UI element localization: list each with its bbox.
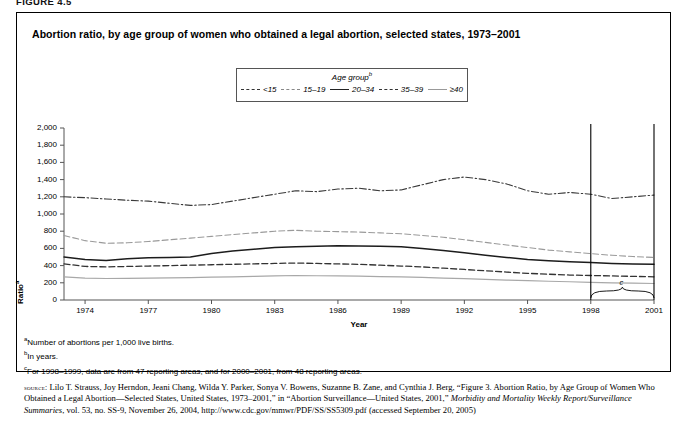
footnote-a-text: Number of abortions per 1,000 live birth… <box>27 338 174 347</box>
legend-label-15-19: 15–19 <box>303 85 325 94</box>
legend-item-40plus: ≥40 <box>428 85 463 94</box>
legend-title-superscript: b <box>369 71 372 77</box>
source-citation: source: Lilo T. Strauss, Joy Herndon, Je… <box>24 382 669 416</box>
footnote-c: cFor 1998–1999, data are from 47 reporti… <box>24 363 654 377</box>
chart-plot-area: Ratioa 2,0001,8001,6001,4001,2001,000800… <box>20 118 675 318</box>
y-axis-tick-label: 1,600 <box>20 158 57 166</box>
legend-label-40plus: ≥40 <box>450 85 463 94</box>
series-line-20-34 <box>64 246 654 264</box>
x-axis-tick-label: 1989 <box>381 306 421 315</box>
series-line-35-39 <box>64 263 654 277</box>
legend-line-icon-15-19 <box>281 87 300 93</box>
page-title: Abortion ratio, by age group of women wh… <box>32 28 520 40</box>
x-axis-tick-label: 1986 <box>318 306 358 315</box>
legend-title-text: Age group <box>332 73 369 82</box>
x-axis-tick-label: 1998 <box>571 306 611 315</box>
footnote-c-text: For 1998–1999, data are from 47 reportin… <box>27 366 362 375</box>
x-axis-tick-label: 2001 <box>634 306 674 315</box>
y-axis-tick-label: 1,400 <box>20 176 57 184</box>
footnote-b-text: In years. <box>27 352 58 361</box>
legend-item-lt15: <15 <box>241 85 277 94</box>
y-axis-tick-label: 2,000 <box>20 124 57 132</box>
x-axis-tick-label: 1980 <box>192 306 232 315</box>
series-line-15-19 <box>64 230 654 257</box>
figure-label: FIGURE 4.5 <box>16 0 72 7</box>
legend-line-icon-35-39 <box>379 87 398 93</box>
legend-items: <15 15–19 20–34 35–39 ≥40 <box>241 85 463 94</box>
x-axis-tick-label: 1995 <box>508 306 548 315</box>
legend-label-lt15: <15 <box>263 85 277 94</box>
line-chart-svg <box>20 118 675 318</box>
brace-annotation-label: c <box>619 278 623 287</box>
y-axis-tick-label: 0 <box>20 296 57 304</box>
legend-title: Age groupb <box>237 71 467 82</box>
legend-line-icon-lt15 <box>241 87 260 93</box>
y-axis-tick-label: 1,200 <box>20 193 57 201</box>
x-axis-tick-label: 1974 <box>65 306 105 315</box>
y-axis-tick-label: 400 <box>20 262 57 270</box>
series-line-15 <box>64 177 654 205</box>
footnotes: aNumber of abortions per 1,000 live birt… <box>24 334 654 377</box>
x-axis-tick-label: 1977 <box>128 306 168 315</box>
legend-item-15-19: 15–19 <box>281 85 325 94</box>
source-prefix: source: <box>24 383 47 392</box>
source-part2: , vol. 53, no. SS-9, November 26, 2004, … <box>62 405 476 415</box>
footnote-b: bIn years. <box>24 348 654 362</box>
x-axis-tick-label: 1992 <box>444 306 484 315</box>
x-axis-title: Year <box>319 320 399 329</box>
y-axis-tick-label: 1,800 <box>20 141 57 149</box>
brace-annotation <box>591 287 654 298</box>
y-axis-tick-label: 1,000 <box>20 210 57 218</box>
chart-legend: Age groupb <15 15–19 20–34 35–39 ≥40 <box>236 68 468 102</box>
x-axis-tick-label: 1983 <box>255 306 295 315</box>
y-axis-tick-label: 200 <box>20 279 57 287</box>
legend-label-35-39: 35–39 <box>401 85 423 94</box>
footnote-a: aNumber of abortions per 1,000 live birt… <box>24 334 654 348</box>
legend-line-icon-20-34 <box>330 87 349 93</box>
y-axis-tick-label: 800 <box>20 227 57 235</box>
y-axis-tick-label: 600 <box>20 244 57 252</box>
legend-item-20-34: 20–34 <box>330 85 374 94</box>
legend-label-20-34: 20–34 <box>352 85 374 94</box>
legend-line-icon-40plus <box>428 87 447 93</box>
legend-item-35-39: 35–39 <box>379 85 423 94</box>
series-line-40 <box>64 275 654 283</box>
